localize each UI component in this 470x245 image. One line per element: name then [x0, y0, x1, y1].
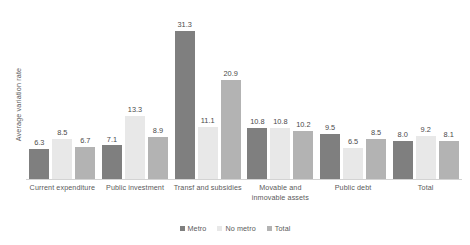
bar[interactable] — [393, 141, 413, 179]
category-label-line: Current expenditure — [26, 183, 99, 193]
legend-item[interactable]: Total — [267, 224, 291, 233]
category-label-line: Total — [389, 183, 462, 193]
bar-value-label: 9.5 — [325, 124, 335, 131]
bar-group: 7.113.38.9 — [99, 12, 172, 179]
bar-value-label: 6.5 — [348, 138, 358, 145]
chart-legend: MetroNo metroTotal — [0, 224, 470, 233]
legend-swatch-icon — [180, 226, 185, 231]
bar-group: 10.810.810.2 — [244, 12, 317, 179]
bar[interactable] — [198, 127, 218, 179]
bar-value-label: 10.2 — [296, 121, 310, 128]
bar[interactable] — [439, 141, 459, 179]
bar-value-label: 31.3 — [177, 21, 191, 28]
bar-slot: 10.2 — [293, 12, 313, 179]
legend-item[interactable]: Metro — [180, 224, 207, 233]
bar-slot: 8.5 — [52, 12, 72, 179]
plot-area: 6.38.56.77.113.38.931.311.120.910.810.81… — [26, 12, 462, 179]
bar-slot: 6.3 — [29, 12, 49, 179]
bar[interactable] — [320, 134, 340, 179]
bar-value-label: 6.7 — [80, 137, 90, 144]
category-label-line: Movable and — [244, 183, 317, 193]
x-axis-category-label: Public investment — [99, 183, 172, 202]
legend-item[interactable]: No metro — [217, 224, 255, 233]
x-axis-category-label: Movable andinmovable assets — [244, 183, 317, 202]
bar-value-label: 8.0 — [398, 131, 408, 138]
bar[interactable] — [366, 139, 386, 179]
bar[interactable] — [29, 149, 49, 179]
category-label-line: Transf and subsidies — [171, 183, 244, 193]
x-axis-category-label: Current expenditure — [26, 183, 99, 202]
bar-group: 31.311.120.9 — [171, 12, 244, 179]
bar[interactable] — [52, 139, 72, 179]
category-label-line: Public debt — [317, 183, 390, 193]
legend-swatch-icon — [267, 226, 272, 231]
x-axis-category-label: Transf and subsidies — [171, 183, 244, 202]
bar[interactable] — [293, 131, 313, 179]
bar-slot: 10.8 — [270, 12, 290, 179]
bar-slot: 10.8 — [247, 12, 267, 179]
bar-slot: 31.3 — [175, 12, 195, 179]
bar-value-label: 8.5 — [371, 129, 381, 136]
bar-value-label: 10.8 — [273, 118, 287, 125]
bar-slot: 13.3 — [125, 12, 145, 179]
category-label-line: inmovable assets — [244, 193, 317, 203]
bar-slot: 8.1 — [439, 12, 459, 179]
legend-label: No metro — [225, 224, 255, 233]
bar[interactable] — [125, 116, 145, 179]
bar-value-label: 10.8 — [250, 118, 264, 125]
bar-value-label: 9.2 — [421, 126, 431, 133]
legend-swatch-icon — [217, 226, 222, 231]
bar-slot: 9.5 — [320, 12, 340, 179]
bar-slot: 8.9 — [148, 12, 168, 179]
bar-value-label: 11.1 — [201, 117, 215, 124]
bar-slot: 8.0 — [393, 12, 413, 179]
y-axis-title: Average variation rate — [14, 40, 23, 170]
bar-chart: Average variation rate 6.38.56.77.113.38… — [0, 0, 470, 245]
legend-label: Metro — [188, 224, 207, 233]
bar[interactable] — [102, 145, 122, 179]
bar-groups: 6.38.56.77.113.38.931.311.120.910.810.81… — [26, 12, 462, 179]
bar-slot: 20.9 — [221, 12, 241, 179]
bar[interactable] — [270, 128, 290, 179]
bar-value-label: 8.5 — [57, 129, 67, 136]
bar-group: 8.09.28.1 — [389, 12, 462, 179]
bar[interactable] — [175, 31, 195, 179]
bar[interactable] — [75, 147, 95, 179]
bar-value-label: 13.3 — [128, 106, 142, 113]
bar-slot: 8.5 — [366, 12, 386, 179]
bar[interactable] — [221, 80, 241, 179]
bar-slot: 7.1 — [102, 12, 122, 179]
x-axis-category-labels: Current expenditurePublic investmentTran… — [26, 183, 462, 202]
category-label-line: Public investment — [99, 183, 172, 193]
x-axis-line — [26, 179, 462, 180]
bar-slot: 9.2 — [416, 12, 436, 179]
bar-value-label: 7.1 — [107, 136, 117, 143]
x-axis-category-label: Public debt — [317, 183, 390, 202]
bar[interactable] — [416, 136, 436, 179]
bar-value-label: 20.9 — [223, 70, 237, 77]
bar-slot: 6.7 — [75, 12, 95, 179]
bar-value-label: 8.1 — [444, 131, 454, 138]
bar-value-label: 8.9 — [153, 127, 163, 134]
bar-group: 6.38.56.7 — [26, 12, 99, 179]
bar-group: 9.56.58.5 — [317, 12, 390, 179]
legend-label: Total — [275, 224, 291, 233]
x-axis-category-label: Total — [389, 183, 462, 202]
bar[interactable] — [247, 128, 267, 179]
bar[interactable] — [148, 137, 168, 179]
bar-slot: 6.5 — [343, 12, 363, 179]
bar-value-label: 6.3 — [34, 139, 44, 146]
bar-slot: 11.1 — [198, 12, 218, 179]
bar[interactable] — [343, 148, 363, 179]
